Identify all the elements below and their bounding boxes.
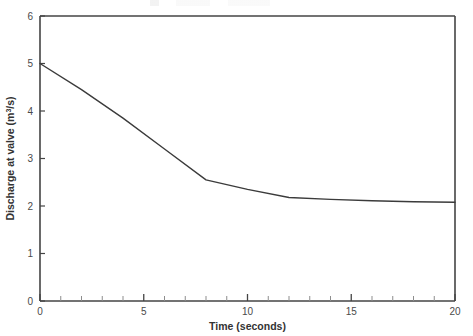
- chart-figure: 0 1 2 3 4 5 6 0 5 10 15 20 Time (seconds…: [0, 0, 473, 336]
- x-tick-label: 5: [141, 306, 147, 317]
- y-tick-label: 4: [27, 106, 33, 117]
- y-tick-label: 1: [27, 248, 33, 259]
- x-axis-title: Time (seconds): [209, 320, 286, 332]
- svg-text:Discharge at valve (m3/s): Discharge at valve (m3/s): [4, 96, 16, 220]
- y-tick-label: 3: [27, 153, 33, 164]
- y-axis-title-prefix: Discharge at valve (m: [4, 113, 16, 221]
- y-axis-title-suffix: /s): [4, 96, 16, 108]
- x-tick-label: 0: [37, 306, 43, 317]
- y-tick-label: 2: [27, 201, 33, 212]
- y-tick-labels: 0 1 2 3 4 5 6: [27, 11, 33, 307]
- data-series-line: [40, 64, 455, 203]
- y-tick-label: 0: [27, 296, 33, 307]
- y-axis-title: Discharge at valve (m3/s): [4, 96, 16, 220]
- x-tick-labels: 0 5 10 15 20: [37, 306, 461, 317]
- x-tick-label: 15: [346, 306, 358, 317]
- x-tick-label: 10: [242, 306, 254, 317]
- axes-frame: [40, 16, 455, 301]
- y-tick-label: 5: [27, 58, 33, 69]
- y-tick-label: 6: [27, 11, 33, 22]
- x-tick-label: 20: [449, 306, 461, 317]
- line-chart: 0 1 2 3 4 5 6 0 5 10 15 20 Time (seconds…: [0, 0, 473, 336]
